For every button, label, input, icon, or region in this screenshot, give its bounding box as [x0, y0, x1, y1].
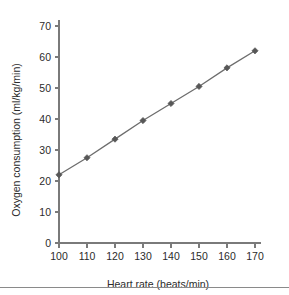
data-point-marker — [252, 48, 258, 54]
x-tick-label: 170 — [246, 250, 264, 262]
data-point-marker — [168, 100, 174, 106]
chart-figure: 010203040506070 100110120130140150160170… — [0, 0, 289, 295]
y-tick-label: 40 — [39, 113, 51, 125]
y-tick-label: 0 — [45, 237, 51, 249]
x-tick-label: 150 — [190, 250, 208, 262]
x-tick-label: 140 — [162, 250, 180, 262]
y-tick-label: 10 — [39, 206, 51, 218]
x-axis-title: Heart rate (beats/min) — [107, 278, 209, 290]
data-point-markers — [56, 48, 258, 178]
x-axis-tick-labels: 100110120130140150160170 — [50, 250, 264, 262]
x-tick-label: 110 — [79, 250, 96, 262]
figure-bottom-rule — [0, 287, 289, 288]
y-tick-label: 30 — [39, 144, 51, 156]
y-tick-label: 70 — [39, 20, 51, 32]
x-tick-label: 120 — [106, 250, 124, 262]
data-point-marker — [56, 172, 62, 178]
y-tick-label: 50 — [39, 82, 51, 94]
y-tick-label: 60 — [39, 51, 51, 63]
x-tick-label: 160 — [218, 250, 236, 262]
x-tick-label: 100 — [50, 250, 68, 262]
y-tick-label: 20 — [39, 175, 51, 187]
x-tick-label: 130 — [134, 250, 152, 262]
y-axis-title: Oxygen consumption (ml/kg/min) — [10, 63, 22, 216]
oxygen-consumption-vs-heart-rate-chart: 010203040506070 100110120130140150160170… — [0, 0, 289, 295]
y-axis-tick-labels: 010203040506070 — [39, 20, 51, 249]
